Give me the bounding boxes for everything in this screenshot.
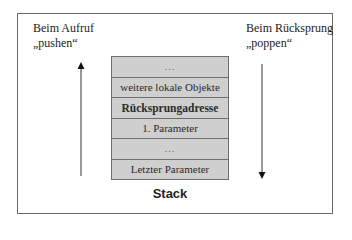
stack-cell-local-objects: weitere lokale Objekte [112,78,228,99]
push-label-line2: „pushen“ [33,36,94,51]
stack-cell-last-parameter: Letzter Parameter [112,160,228,180]
stack-cell-middle-ellipsis: ... [112,139,228,160]
stack-cell-return-address: Rücksprungadresse [112,98,228,119]
stack-cell-first-parameter: 1. Parameter [112,119,228,140]
pop-label-line1: Beim Rücksprung [246,21,333,36]
push-arrow-up-icon [76,62,86,178]
pop-label: Beim Rücksprung „poppen“ [246,21,333,51]
push-label-line1: Beim Aufruf [33,21,94,36]
stack-cell-top-ellipsis: ... [112,57,228,78]
stack-title: Stack [111,186,229,201]
stack: ... weitere lokale Objekte Rücksprungadr… [111,56,229,180]
push-label: Beim Aufruf „pushen“ [33,21,94,51]
pop-label-line2: „poppen“ [246,36,333,51]
pop-arrow-down-icon [257,64,267,180]
